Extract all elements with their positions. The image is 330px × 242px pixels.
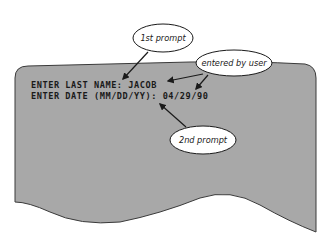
callout-entered-by-user: entered by user [196, 50, 272, 76]
screen-line-date: ENTER DATE (MM/DD/YY): 04/29/90 [31, 91, 208, 101]
callout-second-prompt: 2nd prompt [170, 126, 236, 154]
prompt-diagram: ENTER LAST NAME: JACOB ENTER DATE (MM/DD… [0, 0, 330, 242]
callout-first-prompt: 1st prompt [133, 24, 193, 52]
callout-entered-by-user-label: entered by user [201, 58, 267, 68]
callout-first-prompt-label: 1st prompt [140, 33, 186, 43]
screen-line-last-name: ENTER LAST NAME: JACOB [31, 80, 157, 90]
callout-second-prompt-label: 2nd prompt [179, 135, 228, 145]
